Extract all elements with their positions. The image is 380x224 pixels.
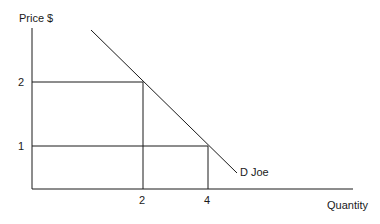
x-tick-2: 2 bbox=[139, 194, 145, 206]
y-tick-1: 1 bbox=[18, 140, 24, 152]
x-tick-4: 4 bbox=[204, 194, 210, 206]
demand-chart: Price $ Quantity D Joe 2 1 2 4 bbox=[0, 0, 380, 224]
demand-curve-line bbox=[91, 30, 237, 173]
demand-curve-label: D Joe bbox=[240, 166, 269, 178]
y-axis-label: Price $ bbox=[19, 12, 53, 24]
y-tick-2: 2 bbox=[18, 76, 24, 88]
chart-canvas: Price $ Quantity D Joe 2 1 2 4 bbox=[0, 0, 380, 224]
x-axis-label: Quantity bbox=[327, 199, 368, 211]
